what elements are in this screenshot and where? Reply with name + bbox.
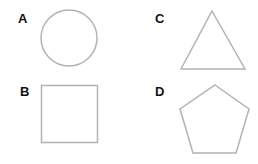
triangle-shape [181, 11, 245, 69]
circle-shape [41, 10, 97, 66]
pentagon-shape [180, 85, 249, 153]
shapes-canvas [0, 0, 258, 164]
square-shape [42, 86, 98, 143]
